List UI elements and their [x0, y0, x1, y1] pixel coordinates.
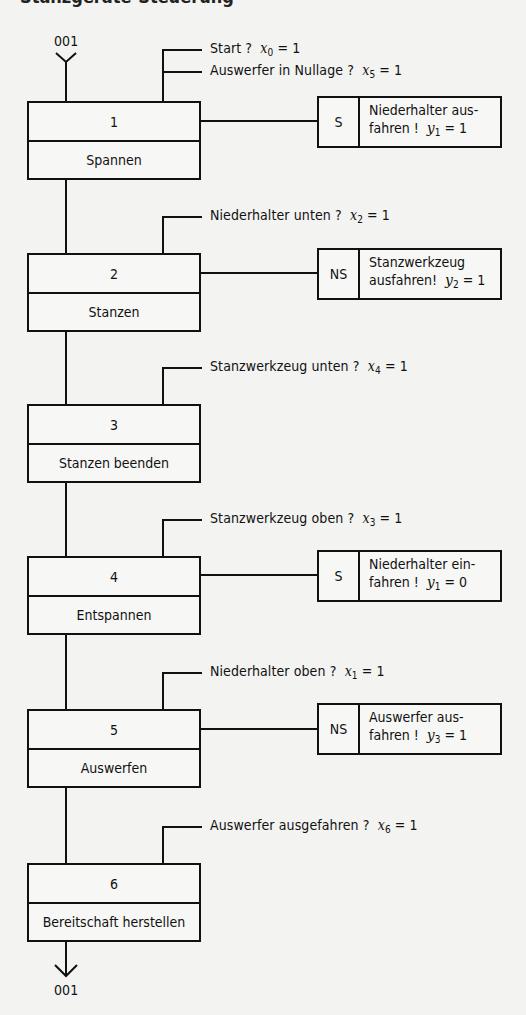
entry-arrowhead-icon [56, 53, 76, 62]
action-qualifier: NS [319, 705, 360, 753]
step-name: Auswerfen [29, 750, 199, 786]
step-name: Bereitschaft herstellen [29, 904, 199, 940]
transition-label: Stanzwerkzeug oben ? x3 = 1 [210, 510, 402, 528]
step-box-1: 1 Spannen [27, 101, 201, 180]
transition-label: Start ? x0 = 1 [210, 40, 300, 58]
transition-label: Auswerfer in Nullage ? x5 = 1 [210, 62, 402, 80]
step-name: Entspannen [29, 597, 199, 633]
action-qualifier: NS [319, 250, 360, 298]
action-box-5: NS Auswerfer aus- fahren ! y3 = 1 [317, 703, 502, 755]
action-box-2: NS Stanzwerkzeug ausfahren! y2 = 1 [317, 248, 502, 300]
step-number: 1 [29, 103, 199, 142]
transition-label: Auswerfer ausgefahren ? x6 = 1 [210, 817, 418, 835]
step-number: 4 [29, 558, 199, 597]
action-text: Stanzwerkzeug ausfahren! y2 = 1 [360, 250, 500, 298]
step-number: 5 [29, 711, 199, 750]
step-number: 6 [29, 865, 199, 904]
step-box-5: 5 Auswerfen [27, 709, 201, 788]
action-qualifier: S [319, 552, 360, 600]
step-name: Stanzen beenden [29, 445, 199, 481]
exit-connector-label: 001 [54, 982, 78, 998]
step-box-4: 4 Entspannen [27, 556, 201, 635]
action-qualifier: S [319, 98, 360, 146]
entry-connector-label: 001 [54, 33, 78, 49]
step-number: 3 [29, 406, 199, 445]
step-name: Stanzen [29, 294, 199, 330]
action-text: Niederhalter ein- fahren ! y1 = 0 [360, 552, 500, 600]
step-box-6: 6 Bereitschaft herstellen [27, 863, 201, 942]
action-text: Auswerfer aus- fahren ! y3 = 1 [360, 705, 500, 753]
step-box-3: 3 Stanzen beenden [27, 404, 201, 483]
action-box-4: S Niederhalter ein- fahren ! y1 = 0 [317, 550, 502, 602]
step-box-2: 2 Stanzen [27, 253, 201, 332]
transition-label: Stanzwerkzeug unten ? x4 = 1 [210, 358, 408, 376]
transition-label: Niederhalter unten ? x2 = 1 [210, 207, 390, 225]
action-box-1: S Niederhalter aus- fahren ! y1 = 1 [317, 96, 502, 148]
transition-label: Niederhalter oben ? x1 = 1 [210, 663, 385, 681]
step-name: Spannen [29, 142, 199, 178]
action-text: Niederhalter aus- fahren ! y1 = 1 [360, 98, 500, 146]
step-number: 2 [29, 255, 199, 294]
